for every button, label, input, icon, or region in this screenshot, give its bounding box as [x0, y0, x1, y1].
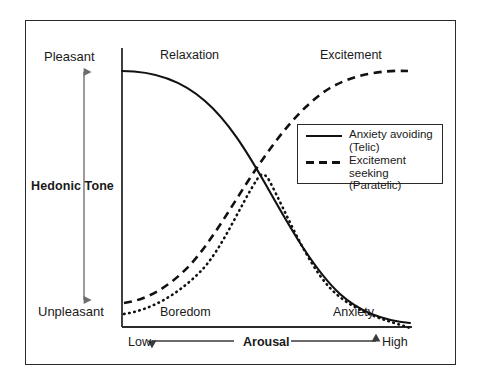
y-axis-top-label: Pleasant [44, 50, 95, 63]
legend-label-line2: (Telic) [349, 141, 380, 153]
legend-solid-line-icon [306, 135, 342, 137]
legend-label-line1: Excitement seeking [349, 154, 406, 179]
legend-label-anxiety-avoiding: Anxiety avoiding(Telic) [349, 128, 433, 153]
y-axis-bottom-label: Unpleasant [38, 305, 104, 318]
region-label-relaxation: Relaxation [160, 49, 219, 62]
legend-label-line2: (Paratelic) [349, 179, 401, 191]
region-label-boredom: Boredom [160, 306, 211, 319]
region-label-anxiety: Anxiety [333, 306, 374, 319]
chart-legend: Anxiety avoiding(Telic) Excitement seeki… [297, 124, 443, 184]
legend-label-excitement-seeking: Excitement seeking(Paratelic) [349, 154, 442, 192]
x-axis-title: Arousal [243, 336, 290, 349]
y-axis-title: Hedonic Tone [31, 180, 114, 193]
legend-item-excitement-seeking: Excitement seeking(Paratelic) [306, 156, 442, 182]
legend-label-line1: Anxiety avoiding [349, 128, 433, 140]
legend-dashed-line-icon [306, 161, 342, 164]
region-label-excitement: Excitement [320, 49, 382, 62]
x-axis-high-label: High [382, 336, 408, 349]
legend-item-anxiety-avoiding: Anxiety avoiding(Telic) [306, 130, 442, 156]
x-axis-low-label: Low [128, 336, 151, 349]
